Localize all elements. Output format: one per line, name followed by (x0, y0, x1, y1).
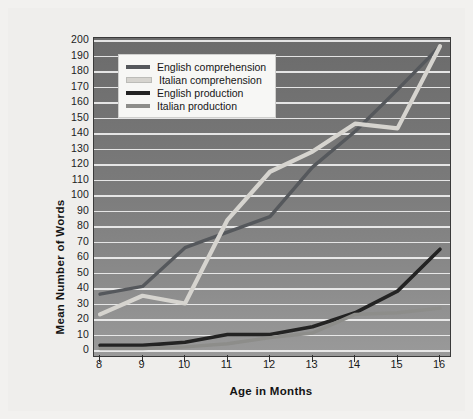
x-axis-tick-label: 14 (341, 358, 367, 370)
y-axis-tick-label: 160 (55, 96, 89, 106)
y-axis-title-wrapper: Mean Number of Words (30, 96, 52, 296)
x-axis-tick-label: 13 (299, 358, 325, 370)
y-axis-tick-label: 180 (55, 65, 89, 75)
legend-label-english-comprehension: English comprehension (157, 61, 266, 73)
legend-swatch-italian-comprehension (126, 77, 152, 83)
legend-label-italian-production: Italian production (157, 100, 237, 112)
x-axis-tick-label: 12 (256, 358, 282, 370)
legend-item: Italian production (126, 99, 266, 112)
y-axis-tick-label: 190 (55, 50, 89, 60)
x-axis-tick-label: 11 (214, 358, 240, 370)
legend-swatch-english-production (126, 91, 150, 95)
y-axis-tick-label: 200 (55, 34, 89, 44)
y-axis-tick-label: 150 (55, 112, 89, 122)
y-axis-title: Mean Number of Words (54, 167, 66, 367)
series-line-italian-production (100, 308, 440, 348)
y-axis-tick-label: 130 (55, 143, 89, 153)
x-axis-title: Age in Months (93, 385, 449, 397)
legend-label-english-production: English production (157, 87, 243, 99)
legend-item: English production (126, 86, 266, 99)
legend-item: English comprehension (126, 60, 266, 73)
legend-item: Italian comprehension (126, 73, 266, 86)
figure: 2001901801701601501401301201101009080706… (0, 0, 473, 419)
y-axis-tick-label: 140 (55, 127, 89, 137)
x-axis-tick-labels: 8910111213141516 (93, 358, 449, 376)
x-axis-tick-label: 9 (129, 358, 155, 370)
x-axis-tick-label: 16 (426, 358, 452, 370)
legend-swatch-english-comprehension (126, 65, 150, 69)
legend-label-italian-comprehension: Italian comprehension (159, 74, 262, 86)
x-axis-tick-label: 10 (171, 358, 197, 370)
y-axis-tick-label: 170 (55, 81, 89, 91)
plot-area: English comprehension Italian comprehens… (93, 37, 451, 357)
legend: English comprehension Italian comprehens… (118, 54, 276, 118)
x-axis-tick-label: 15 (384, 358, 410, 370)
x-axis-tick-label: 8 (86, 358, 112, 370)
figure-page: 2001901801701601501401301201101009080706… (8, 8, 465, 411)
legend-swatch-italian-production (126, 104, 150, 108)
